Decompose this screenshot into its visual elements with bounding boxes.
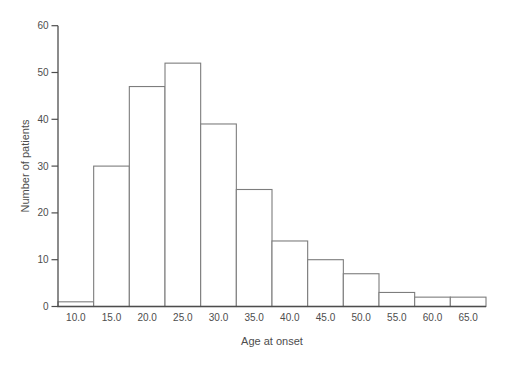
bar-25.0 [165, 63, 201, 306]
x-tick-label-15.0: 15.0 [102, 312, 122, 323]
bar-65.0 [450, 297, 486, 306]
x-tick-label-45.0: 45.0 [316, 312, 336, 323]
x-tick-label-25.0: 25.0 [173, 312, 193, 323]
bar-30.0 [201, 124, 237, 307]
bar-20.0 [129, 87, 165, 307]
bar-15.0 [94, 166, 130, 306]
x-tick-label-60.0: 60.0 [423, 312, 443, 323]
x-axis-title: Age at onset [58, 335, 486, 348]
y-tick-label-10: 10 [37, 254, 49, 265]
y-tick-label-0: 0 [43, 301, 49, 312]
bar-55.0 [379, 292, 415, 306]
x-tick-label-55.0: 55.0 [387, 312, 407, 323]
x-tick-label-20.0: 20.0 [137, 312, 157, 323]
x-tick-label-30.0: 30.0 [209, 312, 229, 323]
y-tick-label-30: 30 [37, 161, 49, 172]
y-tick-label-60: 60 [37, 20, 49, 31]
x-tick-label-65.0: 65.0 [458, 312, 478, 323]
bar-10.0 [58, 302, 94, 307]
bar-40.0 [272, 241, 308, 307]
bar-35.0 [236, 190, 272, 307]
x-tick-label-40.0: 40.0 [280, 312, 300, 323]
x-tick-label-10.0: 10.0 [66, 312, 86, 323]
x-tick-label-50.0: 50.0 [351, 312, 371, 323]
y-axis-title: Number of patients [19, 120, 32, 213]
y-tick-label-50: 50 [37, 67, 49, 78]
y-tick-label-20: 20 [37, 207, 49, 218]
bar-60.0 [415, 297, 451, 306]
y-tick-label-40: 40 [37, 114, 49, 125]
histogram-figure: 010203040506010.015.020.025.030.035.040.… [0, 0, 505, 368]
x-tick-label-35.0: 35.0 [244, 312, 264, 323]
bar-45.0 [308, 260, 344, 307]
histogram-chart: 010203040506010.015.020.025.030.035.040.… [0, 0, 505, 368]
bar-50.0 [343, 274, 379, 307]
